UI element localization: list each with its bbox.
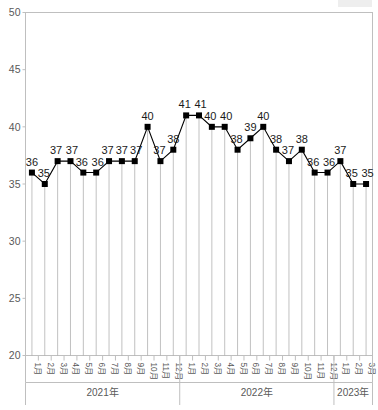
data-point-marker [363, 181, 369, 187]
data-point-marker [145, 124, 151, 130]
data-point-marker [132, 158, 138, 164]
x-axis-month-label: 10月 [303, 363, 312, 380]
x-axis-month-label: 9月 [290, 363, 299, 376]
data-point-marker [157, 158, 163, 164]
data-value-label: 38 [270, 133, 282, 145]
x-axis-month-label: 7月 [110, 363, 119, 376]
data-value-label: 36 [307, 156, 319, 168]
corner-artifact [338, 0, 372, 7]
x-axis-month-label: 1月 [187, 363, 196, 376]
data-value-label: 35 [38, 167, 50, 179]
data-value-label: 40 [257, 110, 269, 122]
data-point-marker [299, 147, 305, 153]
data-point-marker [325, 170, 331, 176]
year-group-label: 2021年 [86, 386, 118, 398]
data-point-marker [170, 147, 176, 153]
x-axis-month-label: 5月 [84, 363, 93, 376]
x-axis-month-label: 10月 [149, 363, 158, 380]
x-axis-month-label: 2月 [46, 363, 55, 376]
x-axis-month-label: 4月 [226, 363, 235, 376]
data-value-label: 37 [153, 144, 165, 156]
y-axis-tick-label: 20 [9, 349, 21, 361]
x-axis-month-label: 6月 [97, 363, 106, 376]
data-value-label: 38 [230, 133, 242, 145]
data-point-marker [93, 170, 99, 176]
data-point-marker [222, 124, 228, 130]
y-axis-tick-label: 45 [9, 63, 21, 75]
data-point-marker [42, 181, 48, 187]
x-axis-month-label: 8月 [277, 363, 286, 376]
x-axis-month-label: 2月 [200, 363, 209, 376]
data-point-marker [312, 170, 318, 176]
data-value-label: 37 [282, 144, 294, 156]
data-value-label: 37 [101, 144, 113, 156]
data-point-marker [106, 158, 112, 164]
data-value-label: 37 [66, 144, 78, 156]
y-axis-tick-label: 35 [9, 178, 21, 190]
x-axis-month-label: 2月 [354, 363, 363, 376]
data-point-marker [183, 112, 189, 118]
data-value-label: 37 [50, 144, 62, 156]
y-axis-tick-label: 25 [9, 292, 21, 304]
data-point-marker [119, 158, 125, 164]
x-axis-month-label: 9月 [136, 363, 145, 376]
year-group-label: 2023年 [337, 386, 369, 398]
chart-background [0, 0, 378, 410]
y-axis-tick-label: 40 [9, 121, 21, 133]
data-point-marker [196, 112, 202, 118]
y-axis-tick-label: 30 [9, 235, 21, 247]
data-value-label: 37 [334, 144, 346, 156]
data-point-marker [247, 135, 253, 141]
data-value-label: 36 [26, 156, 38, 168]
x-axis-month-label: 12月 [174, 363, 183, 380]
data-point-marker [350, 181, 356, 187]
x-axis-month-label: 3月 [59, 363, 68, 376]
x-axis-month-label: 12月 [329, 363, 338, 380]
x-axis-month-label: 11月 [161, 363, 170, 380]
data-value-label: 35 [361, 167, 373, 179]
x-axis-month-label: 5月 [239, 363, 248, 376]
x-axis-month-label: 1月 [33, 363, 42, 376]
data-value-label: 41 [179, 98, 191, 110]
data-point-marker [67, 158, 73, 164]
data-value-label: 37 [116, 144, 128, 156]
x-axis-month-label: 3月 [213, 363, 222, 376]
data-value-label: 39 [244, 121, 256, 133]
data-value-label: 36 [323, 156, 335, 168]
x-axis-month-label: 4月 [71, 363, 80, 376]
data-value-label: 40 [220, 110, 232, 122]
x-axis-month-label: 11月 [316, 363, 325, 380]
data-value-label: 38 [167, 133, 179, 145]
data-value-label: 35 [346, 167, 358, 179]
data-point-marker [55, 158, 61, 164]
data-point-marker [337, 158, 343, 164]
data-value-label: 37 [130, 144, 142, 156]
data-point-marker [209, 124, 215, 130]
x-axis-month-label: 1月 [341, 363, 350, 376]
x-axis-month-label: 8月 [123, 363, 132, 376]
data-value-label: 40 [204, 110, 216, 122]
line-chart: 20253035404550 3635373736363737374037384… [0, 0, 378, 410]
chart-container: 20253035404550 3635373736363737374037384… [0, 0, 378, 410]
data-value-label: 41 [194, 98, 206, 110]
x-axis-month-label: 3月 [367, 363, 376, 376]
x-axis-month-label: 7月 [264, 363, 273, 376]
data-value-label: 36 [92, 156, 104, 168]
data-value-label: 40 [141, 110, 153, 122]
data-point-marker [273, 147, 279, 153]
data-value-label: 36 [76, 156, 88, 168]
data-point-marker [29, 170, 35, 176]
data-point-marker [80, 170, 86, 176]
data-point-marker [286, 158, 292, 164]
y-axis-tick-label: 50 [9, 6, 21, 18]
data-point-marker [235, 147, 241, 153]
data-value-label: 38 [296, 133, 308, 145]
x-axis-month-label: 6月 [251, 363, 260, 376]
year-group-label: 2022年 [241, 386, 273, 398]
data-point-marker [260, 124, 266, 130]
